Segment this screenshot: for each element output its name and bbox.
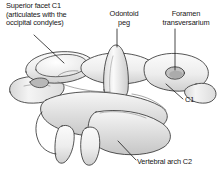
foramen-transversarium-inner-shadow (169, 71, 183, 79)
c2-body-group (10, 45, 216, 165)
label-odontoid-peg: Odontoid peg (100, 10, 148, 27)
label-c1: C1 (185, 96, 194, 105)
label-superior-facet-line3: occipital condyles) (6, 19, 67, 28)
anatomy-figure: Superior facet C1 (articulates with the … (0, 0, 223, 178)
label-foramen-transversarium: Foramen transversarium (150, 10, 222, 27)
label-odontoid-peg-line2: peg (100, 19, 148, 28)
spinous-process-c2 (81, 127, 100, 165)
label-foramen-line2: transversarium (150, 19, 222, 28)
inferior-process-left (55, 125, 74, 163)
label-superior-facet-c1: Superior facet C1 (articulates with the … (6, 2, 67, 28)
label-vertebral-arch-c2: Vertebral arch C2 (137, 158, 192, 167)
contour-detail-1 (58, 82, 110, 92)
